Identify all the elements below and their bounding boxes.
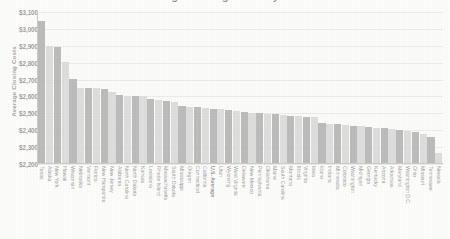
bar-maryland[interactable] xyxy=(396,130,403,164)
bar-hawaii[interactable] xyxy=(62,62,69,164)
bar-michigan[interactable] xyxy=(357,126,364,164)
bar-north-dakota[interactable] xyxy=(132,96,139,164)
x-tick-cell: Tennessee xyxy=(427,164,435,239)
bar-south-carolina[interactable] xyxy=(280,115,287,164)
bar-colorado[interactable] xyxy=(342,125,349,164)
bar-nebraska[interactable] xyxy=(77,88,84,165)
bar-kansas[interactable] xyxy=(139,96,146,164)
bar-rhode-island[interactable] xyxy=(155,100,162,164)
bar-illinois[interactable] xyxy=(295,116,302,164)
bar-north-carolina[interactable] xyxy=(124,96,131,164)
x-tick-new-hampshire: New Hampshire xyxy=(101,166,107,202)
x-tick-nebraska: Nebraska xyxy=(78,166,84,188)
bar-oklahoma[interactable] xyxy=(264,114,271,164)
x-tick-cell: New Hampshire xyxy=(100,164,108,239)
bar-iowa[interactable] xyxy=(311,117,318,164)
bar-idaho[interactable] xyxy=(318,123,325,164)
bar-missouri[interactable] xyxy=(420,134,427,164)
bar-u-s-average[interactable] xyxy=(210,109,217,164)
x-tick-new-jersey: New Jersey xyxy=(109,166,115,193)
bar-california[interactable] xyxy=(202,108,209,164)
x-tick-kentucky: Kentucky xyxy=(373,166,379,187)
x-tick-minnesota: Minnesota xyxy=(335,166,341,190)
bar-ohio[interactable] xyxy=(412,132,419,164)
x-tick-cell: New Mexico xyxy=(248,164,256,239)
x-tick-cell: Mississippi xyxy=(178,164,186,239)
x-tick-cell: New York xyxy=(54,164,62,239)
x-tick-massachusetts: Massachusetts xyxy=(163,166,169,200)
x-tick-texas: Texas xyxy=(39,166,45,179)
x-tick-south-dakota: South Dakota xyxy=(171,166,177,197)
bar-texas[interactable] xyxy=(38,21,45,164)
plot-area xyxy=(38,12,443,164)
bar-wisconsin[interactable] xyxy=(69,79,76,164)
bar-vermont[interactable] xyxy=(85,88,92,164)
x-tick-cell: Maryland xyxy=(396,164,404,239)
bar-indiana[interactable] xyxy=(326,124,333,164)
bar-kentucky[interactable] xyxy=(373,128,380,164)
bar-alabama[interactable] xyxy=(116,95,123,164)
x-tick-cell: Connecticut xyxy=(194,164,202,239)
x-tick-cell: Montana xyxy=(287,164,295,239)
x-tick-cell: Michigan xyxy=(357,164,365,239)
bar-massachusetts[interactable] xyxy=(163,101,170,165)
x-tick-cell: Indiana xyxy=(326,164,334,239)
x-tick-oregon: Oregon xyxy=(187,166,193,183)
bar-maine[interactable] xyxy=(272,114,279,164)
x-tick-vermont: Vermont xyxy=(86,166,92,185)
x-tick-new-york: New York xyxy=(54,166,60,188)
bar-connecticut[interactable] xyxy=(194,107,201,164)
y-tick-2500: $2,500 xyxy=(19,110,38,117)
bar-virginia[interactable] xyxy=(303,117,310,164)
x-tick-washington: Washington xyxy=(350,166,356,193)
bar-new-york[interactable] xyxy=(54,47,61,164)
x-tick-louisiana: Louisiana xyxy=(148,166,154,188)
bar-new-jersey[interactable] xyxy=(108,92,115,164)
x-tick-cell: Colorado xyxy=(341,164,349,239)
bar-pennsylvania[interactable] xyxy=(256,113,263,164)
y-axis-tick-labels: $3,100$3,000$2,900$2,800$2,700$2,600$2,5… xyxy=(8,12,38,164)
bar-georgia[interactable] xyxy=(365,127,372,164)
bar-new-mexico[interactable] xyxy=(248,113,255,165)
x-tick-cell: Alabama xyxy=(116,164,124,239)
bar-montana[interactable] xyxy=(287,116,294,164)
bar-wyoming[interactable] xyxy=(225,110,232,164)
bar-south-dakota[interactable] xyxy=(171,102,178,164)
x-tick-connecticut: Connecticut xyxy=(195,166,201,193)
bar-new-hampshire[interactable] xyxy=(101,89,108,164)
x-tick-cell: Minnesota xyxy=(334,164,342,239)
bar-washington[interactable] xyxy=(350,126,357,165)
x-tick-cell: Washington D.C. xyxy=(404,164,412,239)
x-tick-maine: Maine xyxy=(272,166,278,180)
bar-florida[interactable] xyxy=(93,88,100,164)
x-tick-cell: Louisiana xyxy=(147,164,155,239)
bar-delaware[interactable] xyxy=(241,112,248,164)
bar-alaska[interactable] xyxy=(46,46,53,164)
bar-washington-d-c-[interactable] xyxy=(404,131,411,164)
bar-minnesota[interactable] xyxy=(334,124,341,164)
x-tick-cell: Arkansas xyxy=(388,164,396,239)
x-tick-cell: Wisconsin xyxy=(69,164,77,239)
x-tick-ohio: Ohio xyxy=(412,166,418,177)
bar-arizona[interactable] xyxy=(381,128,388,164)
bar-louisiana[interactable] xyxy=(147,99,154,164)
y-tick-2700: $2,700 xyxy=(19,76,38,83)
bar-utah[interactable] xyxy=(217,109,224,164)
x-tick-alabama: Alabama xyxy=(117,166,123,186)
y-tick-3000: $3,000 xyxy=(19,25,38,32)
x-tick-cell: Florida xyxy=(92,164,100,239)
y-tick-2200: $2,200 xyxy=(19,161,38,168)
x-tick-indiana: Indiana xyxy=(327,166,333,183)
bar-tennessee[interactable] xyxy=(427,137,434,164)
x-tick-cell: Maine xyxy=(271,164,279,239)
bar-oregon[interactable] xyxy=(186,107,193,164)
x-tick-cell: Oregon xyxy=(186,164,194,239)
x-tick-cell: Pennsylvania xyxy=(256,164,264,239)
bar-mississippi[interactable] xyxy=(178,106,185,164)
x-tick-cell: U.S. Average xyxy=(209,164,217,239)
bar-west-virginia[interactable] xyxy=(233,111,240,164)
x-tick-cell: Kentucky xyxy=(373,164,381,239)
x-tick-cell: North Dakota xyxy=(131,164,139,239)
bar-arkansas[interactable] xyxy=(388,129,395,164)
x-tick-cell: Massachusetts xyxy=(163,164,171,239)
